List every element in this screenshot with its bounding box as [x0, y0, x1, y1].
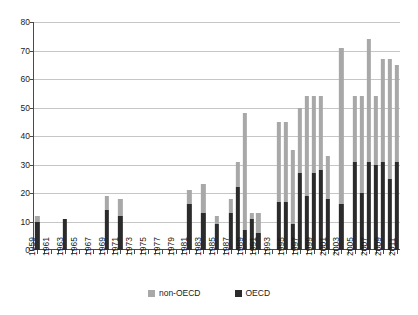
bar-1995[interactable] — [284, 122, 288, 250]
x-axis-tick-label: 1991 — [249, 237, 258, 256]
x-axis-tick-label: 1965 — [69, 237, 78, 256]
bar-slot — [151, 22, 158, 250]
x-axis-tick-label: 2007 — [359, 237, 368, 256]
x-axis-tick-label: 1975 — [138, 237, 147, 256]
x-axis-tick — [286, 250, 287, 254]
bar-slot — [117, 22, 124, 250]
bar-2005[interactable] — [353, 96, 357, 250]
bar-slot — [75, 22, 82, 250]
bars-layer — [34, 22, 400, 250]
bar-slot — [262, 22, 269, 250]
bar-1994[interactable] — [277, 122, 281, 250]
y-axis-tick-label: 60 — [8, 75, 30, 84]
bar-segment-non-oecd — [381, 59, 385, 162]
x-axis-tick — [93, 250, 94, 254]
bar-slot — [193, 22, 200, 250]
x-axis-tick-label: 1985 — [208, 237, 217, 256]
bar-2007[interactable] — [367, 39, 371, 250]
bar-2008[interactable] — [374, 96, 378, 250]
x-axis-tick — [203, 250, 204, 254]
bar-2000[interactable] — [318, 96, 322, 250]
bar-2003[interactable] — [339, 48, 343, 250]
bar-segment-non-oecd — [242, 113, 246, 230]
bar-segment-non-oecd — [360, 96, 364, 193]
x-axis-tick-label: 1987 — [221, 237, 230, 256]
x-axis-tick-label: 1959 — [28, 237, 37, 256]
x-axis-tick — [369, 250, 370, 254]
x-axis-tick-label: 1997 — [290, 237, 299, 256]
bar-slot — [82, 22, 89, 250]
bar-segment-non-oecd — [229, 199, 233, 213]
bar-slot — [110, 22, 117, 250]
legend-item-oecd[interactable]: OECD — [235, 289, 271, 298]
bar-slot — [179, 22, 186, 250]
bar-slot — [89, 22, 96, 250]
x-axis-tick — [314, 250, 315, 254]
bar-2011[interactable] — [394, 65, 398, 250]
bar-slot — [366, 22, 373, 250]
bar-slot — [303, 22, 310, 250]
x-axis-tick-label: 1983 — [194, 237, 203, 256]
bar-segment-non-oecd — [104, 196, 108, 210]
y-axis-tick-label: 40 — [8, 132, 30, 141]
x-axis-tick — [107, 250, 108, 254]
x-axis-tick-label: 2005 — [346, 237, 355, 256]
bar-segment-non-oecd — [394, 65, 398, 162]
bar-slot — [158, 22, 165, 250]
bar-slot — [290, 22, 297, 250]
bar-segment-non-oecd — [339, 48, 343, 205]
bar-slot — [283, 22, 290, 250]
bar-1998[interactable] — [305, 96, 309, 250]
x-axis-tick — [328, 250, 329, 254]
bar-slot — [34, 22, 41, 250]
bar-slot — [317, 22, 324, 250]
bar-slot — [62, 22, 69, 250]
bar-segment-non-oecd — [277, 122, 281, 202]
legend-swatch-non-oecd — [148, 290, 155, 297]
bar-1999[interactable] — [312, 96, 316, 250]
x-axis-tick — [37, 250, 38, 254]
bar-slot — [96, 22, 103, 250]
bar-1997[interactable] — [298, 108, 302, 250]
bar-slot — [324, 22, 331, 250]
bar-slot — [131, 22, 138, 250]
x-axis-tick — [217, 250, 218, 254]
bar-slot — [55, 22, 62, 250]
x-axis-tick — [300, 250, 301, 254]
bar-segment-non-oecd — [312, 96, 316, 173]
y-axis-tick-label: 10 — [8, 218, 30, 227]
bar-slot — [269, 22, 276, 250]
x-axis-tick — [383, 250, 384, 254]
y-axis-tick-label: 70 — [8, 47, 30, 56]
bar-2010[interactable] — [388, 59, 392, 250]
x-axis-tick — [341, 250, 342, 254]
x-axis-tick — [79, 250, 80, 254]
legend-item-non-oecd[interactable]: non-OECD — [148, 289, 201, 298]
bar-2009[interactable] — [381, 59, 385, 250]
bar-slot — [379, 22, 386, 250]
bar-segment-non-oecd — [187, 190, 191, 204]
x-axis-tick-label: 1973 — [125, 237, 134, 256]
bar-segment-non-oecd — [236, 162, 240, 188]
bar-slot — [103, 22, 110, 250]
x-axis-tick — [355, 250, 356, 254]
x-axis-tick-label: 1995 — [277, 237, 286, 256]
bar-slot — [207, 22, 214, 250]
x-axis-tick-label: 1981 — [180, 237, 189, 256]
bar-segment-non-oecd — [215, 216, 219, 225]
x-axis-tick-label: 1977 — [152, 237, 161, 256]
bar-1996[interactable] — [291, 150, 295, 250]
legend-label-non-oecd: non-OECD — [159, 289, 201, 298]
x-axis-tick — [120, 250, 121, 254]
bar-slot — [69, 22, 76, 250]
bar-segment-non-oecd — [318, 96, 322, 170]
x-axis-tick — [148, 250, 149, 254]
x-axis-tick — [134, 250, 135, 254]
bar-2006[interactable] — [360, 96, 364, 250]
x-axis-tick-label: 1993 — [263, 237, 272, 256]
bar-2001[interactable] — [325, 156, 329, 250]
x-axis-tick-label: 2009 — [373, 237, 382, 256]
bar-slot — [386, 22, 393, 250]
bar-1989[interactable] — [242, 113, 246, 250]
x-axis-tick-label: 1961 — [42, 237, 51, 256]
